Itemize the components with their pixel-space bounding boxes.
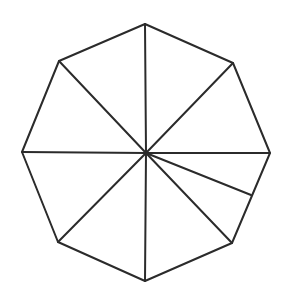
octagon-diagram — [0, 0, 282, 294]
spoke-5 — [58, 153, 146, 242]
spoke-6 — [22, 152, 146, 153]
spoke-0 — [145, 24, 146, 153]
spoke-1 — [146, 63, 233, 153]
octagon-figure — [0, 0, 282, 294]
extra-segment — [146, 153, 251, 195]
spoke-4 — [145, 153, 146, 281]
spoke-3 — [146, 153, 232, 243]
spoke-7 — [59, 61, 146, 153]
